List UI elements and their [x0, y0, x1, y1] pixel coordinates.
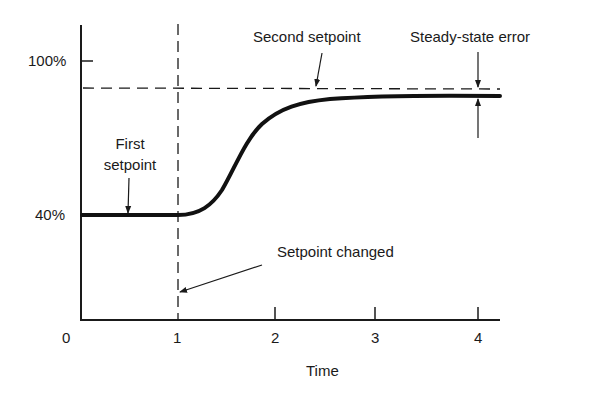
- x-tick-label-2: 2: [271, 330, 279, 345]
- x-axis-label: Time: [306, 363, 339, 378]
- y-tick-label-40: 40%: [35, 207, 65, 222]
- plot-area: [0, 0, 610, 397]
- second-setpoint-arrow: [316, 53, 322, 86]
- x-tick-label-4: 4: [474, 330, 482, 345]
- first-setpoint-arrow: [128, 178, 129, 213]
- setpoint-changed-label: Setpoint changed: [277, 244, 394, 259]
- y-tick-label-100: 100%: [28, 53, 66, 68]
- second-setpoint-label: Second setpoint: [253, 29, 361, 44]
- x-tick-label-0: 0: [62, 330, 70, 345]
- first-setpoint-label-line2: setpoint: [98, 157, 162, 172]
- x-tick-label-1: 1: [173, 330, 181, 345]
- first-setpoint-label-line1: First: [98, 136, 162, 151]
- setpoint-changed-arrow: [180, 265, 262, 292]
- second-setpoint-line: [83, 88, 500, 89]
- steady-state-error-label: Steady-state error: [410, 29, 530, 44]
- setpoint-response-chart: 100% 40% 0 1 2 3 4 Time First setpoint S…: [0, 0, 610, 397]
- x-tick-label-3: 3: [371, 330, 379, 345]
